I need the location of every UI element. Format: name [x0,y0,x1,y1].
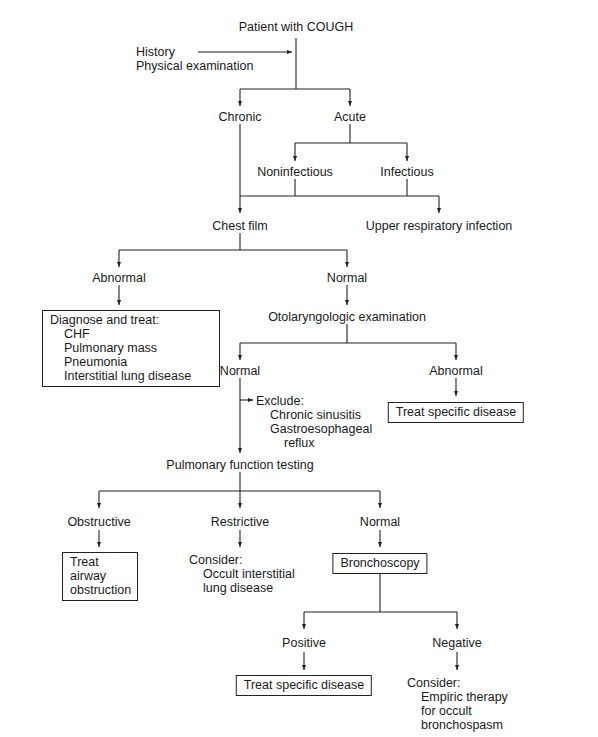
exclude-item-chronic-sinusitis: Chronic sinusitis [256,408,372,422]
treat-specific-disease-box-bronch: Treat specific disease [236,675,372,696]
cough-flowchart: Patient with COUGH History Physical exam… [0,0,598,737]
side-input-physical-exam: Physical examination [136,59,253,73]
node-chronic: Chronic [218,110,261,124]
restrictive-consider-heading: Consider: [189,553,295,567]
obstructive-line-3: obstruction [70,583,130,597]
exclude-block: Exclude: Chronic sinusitis Gastroesophag… [256,394,372,450]
obstructive-line-1: Treat [70,555,130,569]
node-pft-obstructive: Obstructive [67,515,130,529]
diagnose-item-pneumonia: Pneumonia [50,355,212,369]
node-upper-respiratory-infection: Upper respiratory infection [366,219,513,233]
restrictive-item-lung-disease: lung disease [189,581,295,595]
treat-airway-obstruction-box: Treat airway obstruction [62,552,138,601]
node-chest-film: Chest film [212,219,268,233]
obstructive-line-2: airway [70,569,130,583]
node-acute: Acute [334,110,366,124]
exclude-item-reflux: reflux [256,436,372,450]
side-input-history: History [136,45,175,59]
node-chest-film-abnormal: Abnormal [92,271,146,285]
negative-item-empiric-therapy: Empiric therapy [407,690,508,704]
node-pft-restrictive: Restrictive [211,515,269,529]
exclude-item-gastroesophageal: Gastroesophageal [256,422,372,436]
negative-consider-heading: Consider: [407,676,508,690]
diagnose-heading: Diagnose and treat: [50,313,212,327]
treat-specific-disease-box-oto: Treat specific disease [388,402,524,423]
node-pft-normal: Normal [360,515,400,529]
diagnose-item-interstitial-lung-disease: Interstitial lung disease [50,369,212,383]
start-node-title: Patient with COUGH [239,20,354,34]
node-oto-normal: Normal [220,364,260,378]
node-infectious: Infectious [380,165,434,179]
node-chest-film-normal: Normal [327,271,367,285]
diagnose-item-chf: CHF [50,327,212,341]
bronchoscopy-box: Bronchoscopy [332,553,427,574]
exclude-heading: Exclude: [256,394,372,408]
node-noninfectious: Noninfectious [257,165,333,179]
restrictive-item-occult-interstitial: Occult interstitial [189,567,295,581]
negative-item-for-occult: for occult [407,704,508,718]
negative-item-bronchospasm: bronchospasm [407,718,508,732]
diagnose-and-treat-box: Diagnose and treat: CHF Pulmonary mass P… [42,310,220,387]
node-bronch-negative: Negative [432,636,481,650]
diagnose-item-pulmonary-mass: Pulmonary mass [50,341,212,355]
node-pulmonary-function-testing: Pulmonary function testing [166,458,313,472]
node-otolaryngologic-exam: Otolaryngologic examination [268,310,426,324]
negative-consider-block: Consider: Empiric therapy for occult bro… [407,676,508,732]
node-bronch-positive: Positive [282,636,326,650]
restrictive-consider-block: Consider: Occult interstitial lung disea… [189,553,295,595]
node-oto-abnormal: Abnormal [429,364,483,378]
